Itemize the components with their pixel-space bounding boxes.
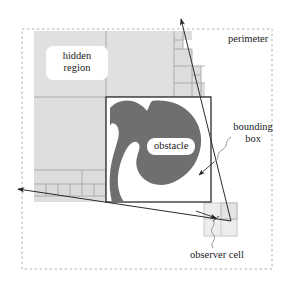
label-hidden-region-line1: hidden	[48, 50, 106, 62]
label-obstacle: obstacle	[147, 138, 195, 155]
label-bounding-box-line1: bounding	[224, 121, 282, 133]
label-bounding-box: bounding box	[224, 121, 282, 146]
staircase-cells-upper-right	[174, 31, 205, 97]
label-hidden-region: hidden region	[46, 46, 108, 80]
label-perimeter: perimeter	[228, 33, 268, 45]
label-bounding-box-line2: box	[224, 133, 282, 145]
figure-canvas: hidden region obstacle perimeter boundin…	[0, 0, 294, 291]
label-observer-cell: observer cell	[190, 249, 244, 261]
label-hidden-region-line2: region	[48, 62, 106, 74]
